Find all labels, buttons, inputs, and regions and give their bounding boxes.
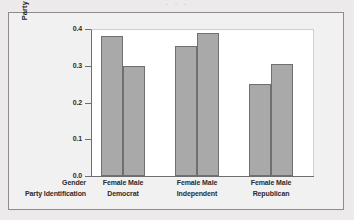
y-axis-title: Party ID Proportion: [20, 0, 29, 44]
y-tick-label: 0.2: [42, 99, 82, 106]
y-tick-mark: [85, 176, 91, 177]
bar-independent-female: [175, 46, 197, 176]
party-label-democrat: Democrat: [89, 190, 157, 197]
party-label-independent: Independent: [163, 190, 231, 197]
y-tick-mark: [85, 29, 91, 30]
x-axis-baseline: [91, 176, 314, 177]
bar-democrat-female: [101, 36, 123, 176]
bar-independent-male: [197, 33, 219, 176]
y-tick-label: 0.4: [42, 25, 82, 32]
party-label-republican: Republican: [237, 190, 305, 197]
bar-republican-male: [271, 64, 293, 176]
y-tick-mark: [85, 139, 91, 140]
gender-labels-republican: Female Male: [241, 179, 301, 186]
gender-row-title: Gender: [18, 179, 86, 186]
clipped-title-fragment: · · ·: [0, 0, 354, 11]
y-tick-label: 0.3: [42, 62, 82, 69]
gender-labels-democrat: Female Male: [93, 179, 153, 186]
y-tick-mark: [85, 66, 91, 67]
gender-labels-independent: Female Male: [167, 179, 227, 186]
bar-democrat-male: [123, 66, 145, 176]
y-tick-mark: [85, 103, 91, 104]
bar-republican-female: [249, 84, 271, 176]
y-tick-label: 0.0: [42, 172, 82, 179]
y-tick-label: 0.1: [42, 135, 82, 142]
party-row-title: Party Identification: [4, 190, 86, 197]
plot-frame-right-edge: [313, 29, 314, 177]
